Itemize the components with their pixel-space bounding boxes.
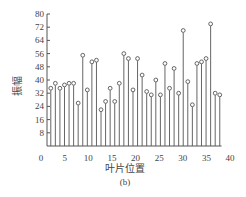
stem-marker xyxy=(195,62,199,66)
stem-marker xyxy=(53,81,57,85)
stem-marker xyxy=(122,52,126,56)
y-axis: 8162432404856647280 xyxy=(35,9,50,146)
stem-marker xyxy=(127,57,131,61)
stem-marker xyxy=(99,108,103,112)
y-tick-label: 8 xyxy=(40,128,45,138)
y-axis-label: 振幅 xyxy=(11,76,23,96)
plot-area xyxy=(49,22,222,146)
stem-marker xyxy=(149,93,153,97)
x-axis: 0510152025303540 xyxy=(39,146,235,163)
x-tick-label: 0 xyxy=(39,153,44,163)
stem-marker xyxy=(72,81,76,85)
y-tick-label: 48 xyxy=(35,62,45,72)
x-tick-label: 40 xyxy=(226,153,236,163)
x-axis-label: 叶片位置 xyxy=(105,162,145,174)
stem-marker xyxy=(158,93,162,97)
stem-marker xyxy=(108,86,112,90)
stem-marker xyxy=(76,101,80,105)
y-tick-label: 80 xyxy=(35,9,45,19)
stem-marker xyxy=(113,100,117,104)
y-tick-label: 40 xyxy=(35,75,45,85)
figure-caption: (b) xyxy=(120,177,131,187)
stem-marker xyxy=(131,88,135,92)
y-tick-label: 16 xyxy=(35,115,45,125)
x-tick-label: 5 xyxy=(62,153,67,163)
stem-marker xyxy=(136,57,140,61)
x-tick-label: 25 xyxy=(155,153,165,163)
x-tick-label: 35 xyxy=(202,153,212,163)
stem-marker xyxy=(218,93,222,97)
y-tick-label: 24 xyxy=(35,101,45,111)
x-tick-label: 30 xyxy=(178,153,188,163)
stem-marker xyxy=(81,53,85,57)
stem-marker xyxy=(172,67,176,71)
stem-marker xyxy=(140,73,144,77)
stem-marker xyxy=(58,86,62,90)
stem-marker xyxy=(204,57,208,61)
x-tick-label: 20 xyxy=(131,153,141,163)
stem-marker xyxy=(186,80,190,84)
stem-marker xyxy=(67,81,71,85)
stem-marker xyxy=(117,81,121,85)
x-tick-label: 10 xyxy=(84,153,94,163)
stem-marker xyxy=(200,60,204,64)
stem-marker xyxy=(63,83,67,87)
stem-marker xyxy=(154,78,158,82)
stem-chart: 8162432404856647280 0510152025303540 振幅 … xyxy=(0,0,246,197)
x-tick-label: 15 xyxy=(107,153,117,163)
stem-marker xyxy=(95,58,99,62)
stem-marker xyxy=(190,103,194,107)
stem-marker xyxy=(168,86,172,90)
y-tick-label: 32 xyxy=(35,88,44,98)
stem-marker xyxy=(90,60,94,64)
stem-marker xyxy=(177,91,181,95)
stem-marker xyxy=(209,22,213,26)
y-tick-label: 64 xyxy=(35,35,45,45)
y-tick-label: 72 xyxy=(35,22,44,32)
stem-marker xyxy=(85,88,89,92)
stem-marker xyxy=(145,90,149,94)
y-tick-label: 56 xyxy=(35,49,45,59)
stem-marker xyxy=(213,91,217,95)
stem-marker xyxy=(181,29,185,33)
stem-marker xyxy=(104,100,108,104)
stem-marker xyxy=(49,86,53,90)
stem-marker xyxy=(163,62,167,66)
